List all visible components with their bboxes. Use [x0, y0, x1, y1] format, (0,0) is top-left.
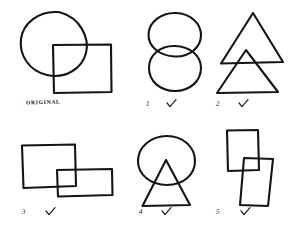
figure-label-3: 3: [22, 208, 26, 216]
figure-label-original: ORIGINAL: [26, 99, 61, 106]
figure-2: [213, 10, 289, 96]
shape-rectangle-5-bottom: [240, 158, 273, 206]
figure-4: [133, 134, 205, 210]
figure-label-1: 1: [146, 100, 150, 108]
figure-5: [211, 128, 283, 210]
checkmark-icon-1: [166, 99, 177, 108]
shape-circle-top: [148, 13, 201, 57]
shape-triangle-4: [143, 160, 191, 206]
figure-3: [17, 142, 117, 204]
shape-rectangle-3: [57, 169, 113, 197]
checkmark-icon-5: [240, 207, 251, 216]
checkmark-icon-2: [238, 99, 249, 108]
shape-circle-bottom: [149, 46, 201, 91]
shape-square: [53, 45, 112, 94]
figure-1: [143, 10, 213, 96]
figure-label-5: 5: [216, 208, 220, 216]
drawing-sheet: ORIGINAL 1 2 3 4: [0, 0, 290, 235]
figure-label-2: 2: [216, 100, 220, 108]
figure-label-4: 4: [139, 208, 143, 216]
checkmark-icon-3: [45, 207, 56, 216]
shape-square-3: [22, 145, 76, 189]
figure-original: [10, 6, 125, 98]
checkmark-icon-4: [161, 207, 172, 216]
shape-triangle-large: [221, 13, 283, 64]
